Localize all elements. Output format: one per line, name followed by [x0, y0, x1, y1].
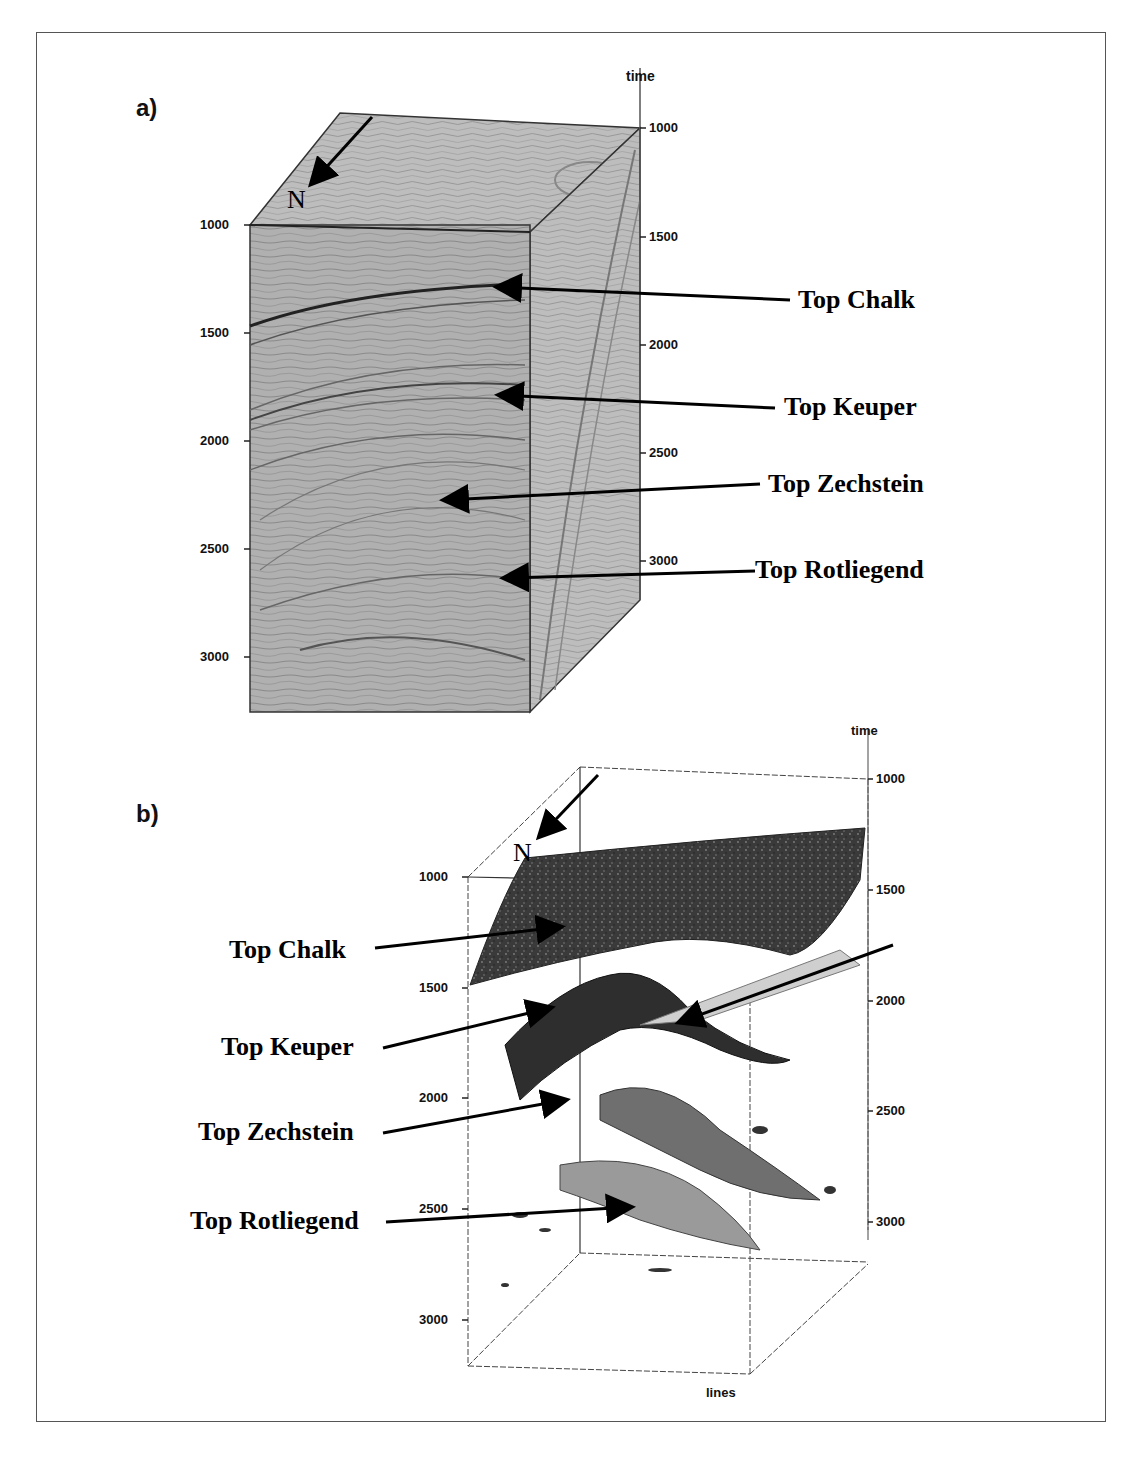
panel-b-left-tick: 2000 — [419, 1090, 448, 1105]
panel-b-right-tick: 2500 — [876, 1103, 905, 1118]
panel-b-horizon-top-rotliegend: Top Rotliegend — [190, 1206, 359, 1236]
panel-b-horizon-top-keuper: Top Keuper — [221, 1032, 354, 1062]
panel-b-horizon-top-zechstein: Top Zechstein — [198, 1117, 354, 1147]
panel-b-right-tick: 1500 — [876, 882, 905, 897]
panel-b-time-axis-title: time — [851, 723, 878, 738]
panel-b-left-tick: 2500 — [419, 1201, 448, 1216]
panel-b-left-tick: 1000 — [419, 869, 448, 884]
panel-b-right-tick: 3000 — [876, 1214, 905, 1229]
panel-b-horizon-cube — [0, 0, 1141, 1459]
panel-b-label: b) — [136, 800, 159, 828]
panel-b-right-tick: 1000 — [876, 771, 905, 786]
panel-b-left-tick: 3000 — [419, 1312, 448, 1327]
panel-b-lines-axis-title: lines — [706, 1385, 736, 1400]
panel-b-north-label: N — [513, 838, 532, 868]
panel-b-horizon-top-chalk: Top Chalk — [229, 935, 346, 965]
panel-b-left-tick: 1500 — [419, 980, 448, 995]
panel-b-right-tick: 2000 — [876, 993, 905, 1008]
